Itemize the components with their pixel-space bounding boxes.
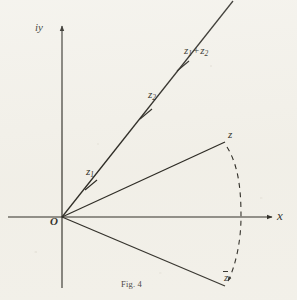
point-label-z1-plus-z2: z1+z2 <box>184 45 208 58</box>
sum-second-subscript: 2 <box>205 49 209 58</box>
point-label-z2-subscript: 2 <box>152 93 156 102</box>
x-axis-label: x <box>277 209 283 222</box>
vector-z-conjugate <box>62 217 225 286</box>
figure-caption: Fig. 4 <box>121 279 142 289</box>
vector-group <box>62 142 225 286</box>
point-label-z1-subscript: 1 <box>90 170 94 179</box>
point-label-z: z <box>228 129 232 140</box>
point-label-z-conjugate: z <box>224 272 228 283</box>
point-label-z2: z2 <box>148 89 156 102</box>
tick-mark-z1-plus-z2 <box>177 61 189 71</box>
ray-z1-z2-sum <box>62 1 233 217</box>
conjugate-overbar: z <box>224 272 228 283</box>
y-axis-label: iy <box>35 22 43 33</box>
ray-z1-z2-sum-group <box>62 1 233 217</box>
vector-z <box>62 142 225 217</box>
figure-container: · · iy x O z1 z2 z1+ <box>0 0 297 300</box>
reflection-arc <box>227 147 241 281</box>
sum-operator: + <box>192 44 200 56</box>
figure-canvas <box>0 0 297 300</box>
point-label-z1: z1 <box>86 166 94 179</box>
origin-label: O <box>50 216 58 227</box>
